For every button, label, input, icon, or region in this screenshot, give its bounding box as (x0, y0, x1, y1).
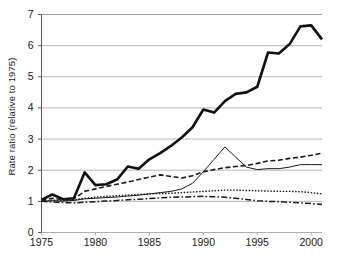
y-tick-label: 4 (18, 102, 34, 112)
x-tick-label: 1980 (75, 237, 115, 248)
y-tick-label: 1 (18, 196, 34, 206)
x-axis-ticks (42, 233, 312, 236)
series-dotted (42, 190, 323, 201)
x-tick-label: 1975 (22, 237, 62, 248)
y-tick-label: 5 (18, 71, 34, 81)
x-tick-label: 1990 (183, 237, 223, 248)
y-tick-label: 7 (18, 9, 34, 19)
x-tick-label: 1995 (237, 237, 277, 248)
series-thick-solid (42, 25, 323, 199)
y-tick-label: 6 (18, 40, 34, 50)
x-tick-label: 2000 (291, 237, 331, 248)
y-tick-label: 2 (18, 165, 34, 175)
series-dash-dot (42, 196, 323, 204)
plot-area: 01234567 197519801985199019952000 (0, 0, 338, 268)
data-series-group (42, 25, 323, 204)
chart-canvas (0, 0, 338, 268)
y-tick-label: 3 (18, 134, 34, 144)
chart-figure: Rate ratio (relative to 1975) 01234567 1… (0, 0, 338, 268)
x-tick-label: 1985 (129, 237, 169, 248)
